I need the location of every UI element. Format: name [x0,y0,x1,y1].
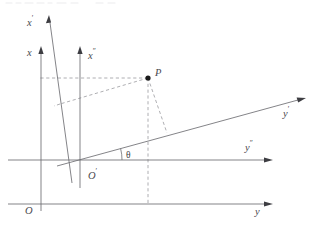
projection-x-prime-foot [54,104,60,106]
point-p-marker [145,75,150,80]
angle-theta-arc [121,149,122,161]
diagram-canvas [0,0,322,233]
axis-x-prime-line [50,22,72,183]
label-y-prime: y′ [283,106,290,119]
axis-y-group [8,201,273,206]
label-o-prime: O′ [88,168,98,181]
axis-x-arrowhead [38,46,43,54]
axis-y-prime-group [57,98,306,167]
label-x-prime: x′ [27,15,34,28]
axis-x-double-prime-arrowhead [77,46,82,54]
axis-x-group [38,46,43,211]
label-x: x [27,48,32,59]
label-theta: θ [126,151,131,161]
projection-p-to-x-prime-axis [60,78,148,104]
figure-root: x′ x x″ P y′ y″ θ O′ O y [0,0,322,233]
projection-p-to-y-prime-axis [148,78,167,133]
label-y-double-prime: y″ [245,140,253,153]
axis-x-prime-group [46,15,72,183]
axis-x-double-prime-group [77,46,82,188]
axis-x-prime-arrowhead [46,15,51,23]
axis-y-prime-arrowhead [297,98,306,103]
axis-y-double-prime-group [8,157,273,162]
axis-y-double-prime-arrowhead [264,157,273,162]
axis-y-prime-line [57,100,298,166]
label-y: y [255,207,260,218]
label-point-p: P [155,68,161,79]
label-x-double-prime: x″ [88,48,96,61]
label-o: O [25,206,33,217]
axis-y-arrowhead [264,201,273,206]
